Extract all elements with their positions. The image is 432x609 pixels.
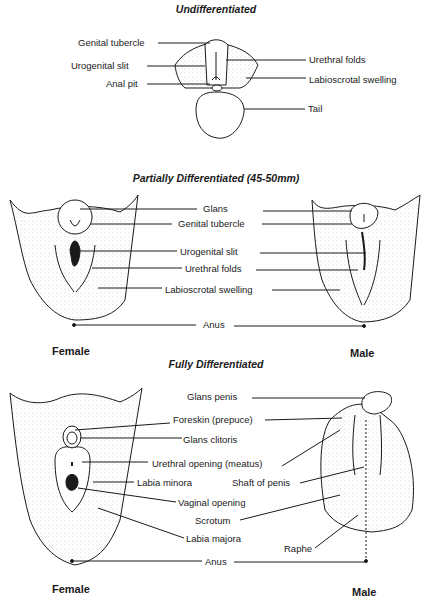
fully-differentiated-female-illustration bbox=[10, 388, 142, 565]
label-urogenital-slit: Urogenital slit bbox=[71, 60, 129, 71]
caption-female-partial: Female bbox=[52, 345, 90, 357]
label-foreskin: Foreskin (prepuce) bbox=[173, 414, 253, 425]
label-anus-2: Anus bbox=[203, 319, 225, 330]
label-vaginal-opening: Vaginal opening bbox=[178, 497, 245, 508]
label-urethral-folds: Urethral folds bbox=[309, 54, 366, 65]
label-labioscrotal-swelling: Labioscrotal swelling bbox=[309, 74, 397, 85]
fully-differentiated-male-illustration bbox=[321, 392, 414, 563]
label-shaft-of-penis: Shaft of penis bbox=[232, 477, 290, 488]
partially-differentiated-female-illustration bbox=[10, 195, 138, 327]
label-labia-minora: Labia minora bbox=[137, 477, 192, 488]
label-urogenital-slit-2: Urogenital slit bbox=[180, 246, 238, 257]
label-genital-tubercle-2: Genital tubercle bbox=[178, 218, 245, 229]
label-raphe: Raphe bbox=[284, 543, 312, 554]
label-glans-penis: Glans penis bbox=[187, 391, 237, 402]
label-glans-clitoris: Glans clitoris bbox=[183, 434, 237, 445]
undifferentiated-illustration bbox=[147, 40, 306, 138]
label-labioscrotal-swelling-2: Labioscrotal swelling bbox=[165, 284, 253, 295]
caption-male-full: Male bbox=[352, 586, 376, 598]
label-anal-pit: Anal pit bbox=[106, 78, 138, 89]
caption-female-full: Female bbox=[52, 583, 90, 595]
label-genital-tubercle: Genital tubercle bbox=[78, 37, 145, 48]
partially-differentiated-male-illustration bbox=[312, 195, 420, 328]
caption-male-partial: Male bbox=[350, 347, 374, 359]
label-glans: Glans bbox=[203, 203, 228, 214]
label-labia-majora: Labia majora bbox=[186, 533, 241, 544]
label-anus-3: Anus bbox=[205, 556, 227, 567]
label-urethral-opening: Urethral opening (meatus) bbox=[152, 458, 262, 469]
label-scrotum: Scrotum bbox=[195, 515, 230, 526]
label-urethral-folds-2: Urethral folds bbox=[185, 263, 242, 274]
label-tail: Tail bbox=[308, 103, 322, 114]
